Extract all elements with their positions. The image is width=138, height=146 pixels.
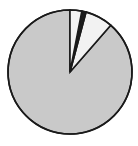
pie-slice-group (8, 10, 132, 134)
pie-chart-canvas (0, 0, 138, 146)
pie-chart-figure (0, 0, 138, 146)
